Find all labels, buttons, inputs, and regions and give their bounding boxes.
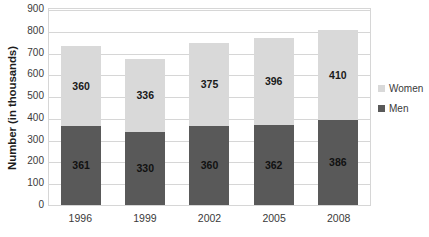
bars-container: 360361336330375360396362410386 xyxy=(49,9,370,205)
legend-swatch-women xyxy=(378,85,385,92)
bar-segment-men[interactable]: 362 xyxy=(254,125,294,205)
bar-value-label-men: 360 xyxy=(201,160,219,171)
y-axis-tick-label: 200 xyxy=(14,156,44,166)
chart-title xyxy=(60,0,360,2)
y-axis-tick-labels: 9008007006005004003002001000 xyxy=(14,3,44,209)
bar-group[interactable]: 396362 xyxy=(254,9,294,205)
chart-legend: WomenMen xyxy=(378,83,423,123)
bar-segment-women[interactable]: 360 xyxy=(61,46,101,125)
y-axis-tick-label: 500 xyxy=(14,91,44,101)
bar-value-label-women: 336 xyxy=(137,90,155,101)
y-axis-tick-label: 700 xyxy=(14,48,44,58)
bar-segment-men[interactable]: 386 xyxy=(318,120,358,205)
bar-value-label-women: 360 xyxy=(72,81,90,92)
bar-value-label-men: 330 xyxy=(137,163,155,174)
bar-segment-men[interactable]: 330 xyxy=(125,132,165,205)
bar-value-label-women: 410 xyxy=(329,70,347,81)
legend-item-men[interactable]: Men xyxy=(378,103,423,114)
x-axis-tick-label: 2002 xyxy=(189,212,229,224)
bar-segment-men[interactable]: 360 xyxy=(189,126,229,205)
y-axis-tick-label: 800 xyxy=(14,26,44,36)
legend-item-women[interactable]: Women xyxy=(378,83,423,94)
plot-area: 360361336330375360396362410386 xyxy=(48,8,371,206)
bar-group[interactable]: 410386 xyxy=(318,9,358,205)
x-axis-tick-labels: 19961999200220052008 xyxy=(48,212,371,224)
bar-segment-men[interactable]: 361 xyxy=(61,126,101,205)
bar-segment-women[interactable]: 336 xyxy=(125,59,165,133)
legend-swatch-men xyxy=(378,105,385,112)
x-axis-tick-label: 1999 xyxy=(125,212,165,224)
legend-label-men: Men xyxy=(389,103,408,114)
y-axis-tick-label: 300 xyxy=(14,135,44,145)
y-axis-tick-label: 400 xyxy=(14,113,44,123)
bar-segment-women[interactable]: 410 xyxy=(318,30,358,120)
bar-group[interactable]: 336330 xyxy=(125,9,165,205)
y-axis-tick-label: 900 xyxy=(14,4,44,14)
bar-segment-women[interactable]: 375 xyxy=(189,43,229,126)
y-axis-tick-label: 600 xyxy=(14,69,44,79)
x-axis-tick-label: 2008 xyxy=(319,212,359,224)
x-axis-tick-label: 1996 xyxy=(60,212,100,224)
legend-label-women: Women xyxy=(389,83,423,94)
y-axis-tick-label: 100 xyxy=(14,178,44,188)
bar-group[interactable]: 360361 xyxy=(61,9,101,205)
bar-value-label-men: 362 xyxy=(265,160,283,171)
bar-value-label-women: 396 xyxy=(265,76,283,87)
y-axis-tick-label: 0 xyxy=(14,200,44,210)
stacked-bar-chart: Number (in thousands) 900800700600500400… xyxy=(0,0,429,237)
bar-group[interactable]: 375360 xyxy=(189,9,229,205)
x-axis-tick-label: 2005 xyxy=(254,212,294,224)
bar-value-label-men: 386 xyxy=(329,157,347,168)
bar-value-label-women: 375 xyxy=(201,79,219,90)
bar-segment-women[interactable]: 396 xyxy=(254,38,294,125)
bar-value-label-men: 361 xyxy=(72,160,90,171)
